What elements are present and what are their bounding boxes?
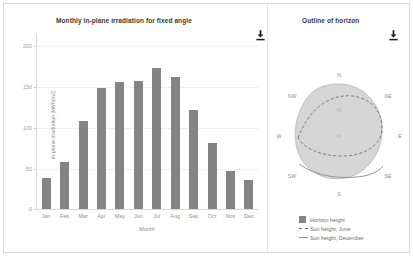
bar-dec[interactable] [244, 180, 253, 210]
y-axis-title: In-plane irradiation [kWh/m2] [50, 70, 56, 180]
compass-label-w: W [277, 133, 282, 139]
compass-label-e: E [398, 133, 401, 139]
bar-jun[interactable] [134, 81, 143, 209]
xtick-label-feb: Feb [60, 213, 69, 219]
bar-column[interactable]: May [111, 34, 129, 209]
xtick-label-jan: Jan [42, 213, 51, 219]
xtick-label-mar: Mar [78, 213, 87, 219]
horizon-chart-title: Outline of horizon [302, 17, 359, 24]
compass-label-n: N [337, 72, 341, 78]
ytick-label-150: 150 [23, 84, 32, 90]
bar-column[interactable]: Feb [55, 34, 73, 209]
monthly-irradiation-chart-panel: Monthly in-plane irradiation for fixed a… [4, 4, 267, 252]
horizon-legend: Horizon height Sun height, June Sun heig… [299, 215, 404, 242]
compass-label-se: SE [385, 173, 392, 179]
bar-feb[interactable] [60, 162, 69, 209]
legend-label: Horizon height [310, 217, 345, 223]
ytick-label-50: 50 [26, 166, 32, 172]
legend-label: Sun height, June [310, 226, 350, 232]
bar-oct[interactable] [208, 143, 217, 209]
bar-column[interactable]: Aug [166, 34, 184, 209]
xtick-label-apr: Apr [97, 213, 105, 219]
bar-column[interactable]: Nov [221, 34, 239, 209]
bar-series: Jan Feb Mar Apr May [37, 34, 258, 209]
bar-sep[interactable] [189, 110, 198, 209]
legend-solid-line-icon [299, 234, 306, 241]
bar-nov[interactable] [226, 171, 235, 210]
horizon-height-region [295, 84, 382, 179]
xtick-label-nov: Nov [226, 213, 236, 219]
legend-item-sun-height-june[interactable]: Sun height, June [299, 224, 404, 233]
screenshot-root: Monthly in-plane irradiation for fixed a… [0, 0, 413, 256]
compass-label-s: S [337, 191, 340, 197]
xtick-label-sep: Sep [189, 213, 199, 219]
x-axis-title: Month [36, 226, 258, 232]
horizon-polar-plot[interactable]: N NE E SE S SW W NW 45 90 [276, 66, 402, 206]
bar-column[interactable]: Sep [184, 34, 202, 209]
legend-label: Sun height, December [310, 235, 364, 241]
xtick-label-jul: Jul [153, 213, 160, 219]
bar-jan[interactable] [42, 178, 51, 209]
x-axis-line [36, 209, 258, 210]
bar-column[interactable]: Mar [74, 34, 92, 209]
elevation-label-90: 90 [336, 133, 342, 139]
bar-column[interactable]: Jun [129, 34, 147, 209]
xtick-label-dec: Dec [244, 213, 254, 219]
bar-column[interactable]: Jul [148, 34, 166, 209]
outline-of-horizon-panel: Outline of horizon N NE E SE S SW [268, 4, 409, 252]
compass-label-ne: NE [384, 93, 391, 99]
legend-dashed-line-icon [299, 225, 306, 232]
bar-chart-title: Monthly in-plane irradiation for fixed a… [56, 17, 192, 24]
xtick-label-jun: Jun [134, 213, 143, 219]
download-icon[interactable] [387, 29, 400, 42]
bar-may[interactable] [115, 82, 124, 209]
legend-item-horizon-height[interactable]: Horizon height [299, 215, 404, 224]
bar-apr[interactable] [97, 88, 106, 209]
xtick-label-may: May [115, 213, 125, 219]
ytick-label-100: 100 [23, 125, 32, 131]
compass-label-nw: NW [288, 93, 297, 99]
legend-swatch-icon [299, 216, 306, 223]
bar-column[interactable]: Oct [203, 34, 221, 209]
bar-jul[interactable] [152, 68, 161, 209]
elevation-label-45: 45 [336, 107, 342, 113]
bar-mar[interactable] [79, 121, 88, 209]
legend-item-sun-height-december[interactable]: Sun height, December [299, 233, 404, 242]
compass-label-sw: SW [288, 173, 296, 179]
ytick-label-200: 200 [23, 43, 32, 49]
bar-plot-area: 200 150 100 50 0 [36, 34, 258, 210]
bar-aug[interactable] [171, 77, 180, 209]
xtick-label-oct: Oct [208, 213, 216, 219]
bar-column[interactable]: Dec [240, 34, 258, 209]
bar-column[interactable]: Apr [92, 34, 110, 209]
ytick-label-0: 0 [29, 206, 32, 212]
xtick-label-aug: Aug [170, 213, 180, 219]
